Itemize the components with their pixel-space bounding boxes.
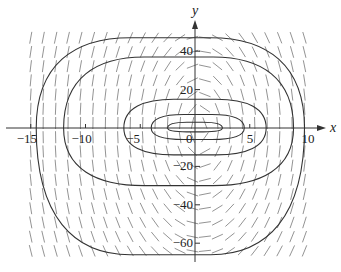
slope-arrow xyxy=(290,245,295,256)
slope-arrow xyxy=(104,202,107,214)
slope-arrow xyxy=(30,32,32,44)
slope-arrow xyxy=(68,103,69,115)
x-ticks: −15−10−50510 xyxy=(17,124,315,146)
slope-arrow xyxy=(167,131,168,143)
slope-arrow xyxy=(225,34,234,42)
slope-arrow xyxy=(80,89,81,101)
slope-arrow xyxy=(30,60,31,72)
slope-arrow xyxy=(303,60,305,72)
slope-arrow xyxy=(303,32,306,44)
slope-arrow xyxy=(92,74,94,86)
slope-arrow xyxy=(93,145,94,157)
slope-arrow xyxy=(117,160,119,172)
slope-arrow xyxy=(42,46,44,58)
slope-arrow xyxy=(214,90,221,100)
slope-arrow xyxy=(265,203,270,214)
slope-arrow xyxy=(116,188,119,200)
slope-arrow xyxy=(116,203,120,214)
slope-arrow xyxy=(240,75,244,86)
slope-arrow xyxy=(199,79,211,82)
slope-arrow xyxy=(226,189,233,199)
slope-arrow xyxy=(79,188,81,200)
slope-arrow xyxy=(253,160,256,172)
slope-arrow xyxy=(153,61,158,72)
slope-arrow xyxy=(277,32,281,43)
slope-arrow xyxy=(152,47,158,57)
slope-arrow xyxy=(238,232,246,241)
slope-arrow xyxy=(55,160,56,172)
slope-arrow xyxy=(239,218,246,227)
slope-arrow xyxy=(290,46,293,58)
slope-arrow xyxy=(67,60,69,72)
slope-arrow xyxy=(129,89,131,101)
x-tick-label: 5 xyxy=(247,131,254,146)
slope-arrow xyxy=(141,188,145,199)
slope-arrow xyxy=(105,89,106,101)
slope-arrow xyxy=(254,103,255,115)
slope-arrow xyxy=(225,218,234,226)
direction-field-plot: x y −15−10−50510 4020−20−40−60 xyxy=(0,0,341,272)
x-tick-label: 10 xyxy=(302,131,315,146)
slope-arrow xyxy=(226,47,234,56)
slope-arrow xyxy=(42,231,45,243)
slope-arrow xyxy=(153,174,157,185)
slope-arrow xyxy=(104,188,107,200)
slope-arrow xyxy=(67,174,69,186)
slope-arrow xyxy=(265,217,270,228)
slope-arrow xyxy=(128,46,132,57)
slope-arrow xyxy=(164,204,172,213)
slope-arrow xyxy=(30,160,31,172)
slope-arrow xyxy=(80,160,81,172)
slope-arrow xyxy=(304,74,306,86)
slope-arrow xyxy=(228,89,232,100)
slope-arrow xyxy=(165,175,171,186)
slope-arrow xyxy=(104,32,108,43)
slope-arrow xyxy=(128,188,132,199)
y-tick-label: 40 xyxy=(180,43,193,58)
slope-arrow xyxy=(91,202,94,214)
slope-arrow xyxy=(67,32,70,44)
slope-arrow xyxy=(92,188,94,200)
x-axis-arrow-icon xyxy=(317,125,326,131)
slope-arrow xyxy=(291,60,294,72)
slope-arrow xyxy=(203,117,207,128)
slope-arrow xyxy=(67,202,69,214)
slope-arrow xyxy=(142,89,144,101)
slope-arrow xyxy=(154,146,156,158)
y-tick-label: 20 xyxy=(180,82,193,97)
slope-arrow xyxy=(66,245,70,256)
slope-arrow xyxy=(92,60,94,72)
slope-arrow xyxy=(227,160,232,171)
slope-arrow xyxy=(252,33,258,43)
slope-arrow xyxy=(187,64,198,68)
slope-arrow xyxy=(104,46,107,58)
slope-arrow xyxy=(227,175,233,185)
slope-arrow xyxy=(117,103,118,115)
slope-arrow xyxy=(165,160,169,171)
y-tick-label: −20 xyxy=(173,158,193,173)
slope-arrow xyxy=(104,74,106,86)
slope-arrow xyxy=(30,188,32,200)
slope-arrow xyxy=(105,145,106,157)
slope-arrow xyxy=(29,245,32,257)
slope-arrow xyxy=(201,132,208,142)
slope-arrow xyxy=(42,217,44,229)
slope-arrow xyxy=(240,61,245,72)
x-tick-label: −15 xyxy=(17,131,37,146)
slope-arrow xyxy=(213,62,222,69)
slope-arrow xyxy=(278,174,281,186)
slope-arrow xyxy=(79,60,81,72)
slope-arrow xyxy=(55,74,56,86)
slope-arrow xyxy=(265,32,270,43)
slope-arrow xyxy=(30,145,31,157)
slope-arrow xyxy=(166,89,170,100)
slope-arrow xyxy=(226,61,233,71)
slope-arrow xyxy=(212,220,223,226)
slope-arrow xyxy=(178,103,182,114)
slope-arrow xyxy=(241,103,243,115)
slope-arrow xyxy=(199,193,211,195)
slope-arrow xyxy=(199,207,211,209)
slope-arrow xyxy=(213,190,223,197)
slope-arrow xyxy=(187,192,198,196)
slope-arrow xyxy=(291,160,293,172)
